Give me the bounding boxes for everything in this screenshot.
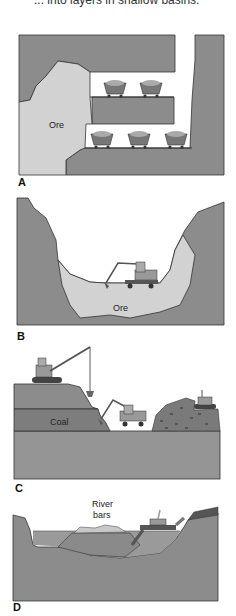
panel-b-illustration: Ore <box>0 190 236 335</box>
panel-c-strip-mine: Coal C <box>0 335 236 485</box>
mine-car <box>91 131 113 149</box>
panel-label-a: A <box>18 176 26 188</box>
coal-label: Coal <box>50 417 69 427</box>
mine-car <box>140 80 162 98</box>
mine-car <box>165 131 187 149</box>
river-bars-label-line1: River <box>92 499 113 509</box>
panel-d-dredging: River bars D <box>0 485 236 616</box>
ore-label-b: Ore <box>113 303 128 313</box>
mine-car <box>104 80 126 98</box>
rock-pillar <box>92 97 174 124</box>
mine-car <box>128 131 150 149</box>
overburden <box>14 384 98 409</box>
ore-label-a: Ore <box>49 120 64 130</box>
panel-d-illustration: River bars <box>0 485 236 616</box>
panel-b-open-pit: Ore B <box>0 190 236 335</box>
river-bars-label-line2: bars <box>93 510 111 520</box>
bulldozer-icon <box>194 390 216 409</box>
base-rock <box>14 431 220 479</box>
panel-label-d: D <box>13 601 21 613</box>
river-bars <box>74 525 126 533</box>
panel-c-illustration: Coal <box>0 335 236 485</box>
panel-a-underground-mine: Ore A <box>0 0 236 190</box>
panel-a-illustration: Ore <box>0 0 236 190</box>
